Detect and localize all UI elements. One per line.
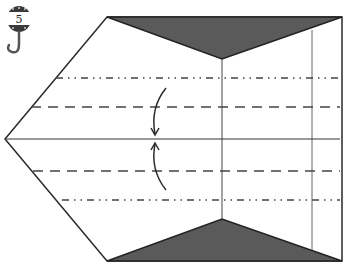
hook-icon (8, 32, 19, 52)
origami-diagram: 5 (0, 0, 351, 272)
step-badge: 5 (7, 6, 31, 52)
step-number: 5 (16, 13, 23, 26)
